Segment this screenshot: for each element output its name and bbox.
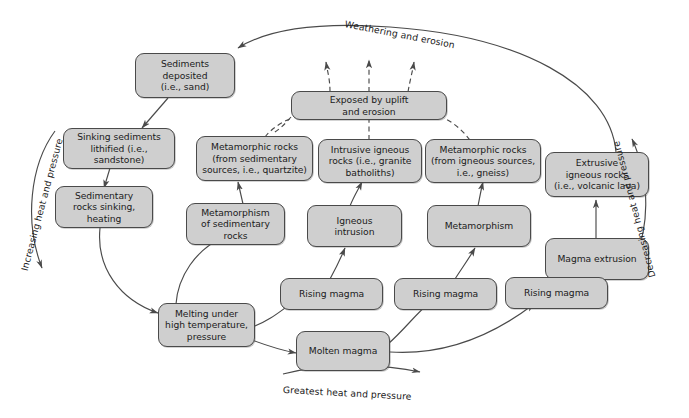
- node-label: Rising magma: [284, 288, 379, 299]
- node-label: Intrusive igneousrocks (i.e., granitebat…: [322, 144, 418, 178]
- node-metamorphic-rocks-igneous[interactable]: Metamorphic rocks(from igneous sources,i…: [425, 139, 541, 183]
- node-sediments-deposited[interactable]: Sedimentsdeposited(i.e., sand): [135, 53, 235, 98]
- node-label: Molten magma: [300, 345, 386, 356]
- node-label: Sedimentaryrocks sinking,heating: [59, 190, 149, 224]
- node-metamorphism-of-sedimentary-rocks[interactable]: Metamorphismof sedimentaryrocks: [186, 203, 285, 245]
- arc-label-weathering-and-erosion: Weathering and erosion: [344, 18, 456, 50]
- node-sedimentary-rocks-sinking[interactable]: Sedimentaryrocks sinking,heating: [55, 186, 153, 228]
- node-label: Metamorphic rocks(from sedimentarysource…: [200, 141, 309, 175]
- node-label: Metamorphic rocks(from igneous sources,i…: [429, 144, 537, 178]
- node-rising-magma-1[interactable]: Rising magma: [280, 278, 383, 310]
- node-magma-extrusion[interactable]: Magma extrusion: [545, 238, 649, 280]
- node-label: Melting underhigh temperature,pressure: [162, 308, 251, 342]
- node-label: Metamorphism: [431, 220, 527, 231]
- node-rising-magma-2[interactable]: Rising magma: [394, 278, 497, 310]
- node-molten-magma[interactable]: Molten magma: [296, 331, 390, 371]
- node-sinking-sediments[interactable]: Sinking sedimentslithified (i.e.,sandsto…: [63, 128, 175, 169]
- node-metamorphic-rocks-sedimentary[interactable]: Metamorphic rocks(from sedimentarysource…: [196, 136, 313, 181]
- node-metamorphism[interactable]: Metamorphism: [427, 205, 531, 247]
- node-label: Exposed by upliftand erosion: [295, 94, 443, 117]
- node-label: Sedimentsdeposited(i.e., sand): [139, 58, 231, 92]
- node-rising-magma-3[interactable]: Rising magma: [505, 277, 608, 309]
- node-label: Metamorphismof sedimentaryrocks: [190, 207, 281, 241]
- node-label: Sinking sedimentslithified (i.e.,sandsto…: [67, 131, 171, 165]
- rock-cycle-diagram: Sedimentsdeposited(i.e., sand) Sinking s…: [0, 0, 689, 418]
- arc-label-greatest-heat-and-pressure: Greatest heat and pressure: [283, 384, 412, 402]
- node-label: Magma extrusion: [549, 253, 645, 264]
- node-intrusive-igneous-rocks[interactable]: Intrusive igneousrocks (i.e., granitebat…: [318, 139, 422, 183]
- node-igneous-intrusion[interactable]: Igneousintrusion: [307, 205, 402, 247]
- node-label: Igneousintrusion: [311, 215, 398, 238]
- node-melting-under-high-temperature[interactable]: Melting underhigh temperature,pressure: [158, 303, 255, 347]
- node-label: Rising magma: [509, 287, 604, 298]
- node-label: Rising magma: [398, 288, 493, 299]
- node-exposed-by-uplift[interactable]: Exposed by upliftand erosion: [291, 91, 447, 120]
